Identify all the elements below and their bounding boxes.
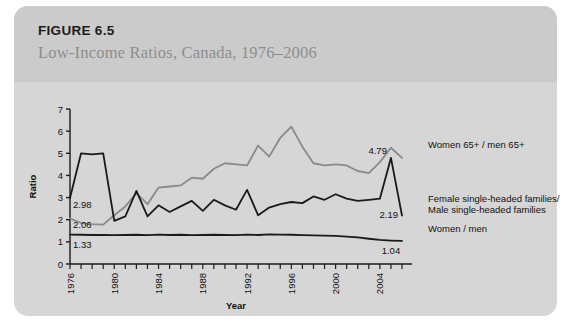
x-axis-tick-label: 1976: [65, 273, 76, 294]
data-point-label: 2.19: [380, 209, 399, 220]
legend-label-female-single-headed-line2: Male single-headed families: [428, 204, 559, 215]
y-axis-tick-label: 2: [58, 214, 63, 225]
data-point-label: 1.33: [73, 239, 92, 250]
legend-label-women-65-plus: Women 65+ / men 65+: [428, 139, 524, 150]
data-point-label: 2.06: [73, 219, 92, 230]
y-axis-title: Ratio: [27, 174, 38, 198]
x-axis-tick-label: 2004: [374, 273, 385, 294]
figure-panel: FIGURE 6.5 Low-Income Ratios, Canada, 19…: [14, 6, 557, 316]
y-axis-tick-label: 0: [58, 259, 63, 270]
x-axis-tick-label: 1992: [242, 273, 253, 294]
y-axis-tick-label: 4: [58, 170, 63, 181]
x-axis-tick-label: 1996: [286, 273, 297, 294]
y-axis: 01234567: [58, 104, 70, 270]
y-axis-tick-label: 1: [58, 236, 63, 247]
series-line: [70, 234, 402, 241]
y-axis-tick-label: 6: [58, 126, 63, 137]
x-axis-tick-label: 2000: [330, 273, 341, 294]
figure-subtitle: Low-Income Ratios, Canada, 1976–2006: [38, 43, 317, 63]
data-point-label: 4.79: [368, 145, 387, 156]
x-axis-tick-label: 1984: [153, 273, 164, 294]
data-point-label: 2.98: [73, 199, 92, 210]
data-series-group: [70, 127, 402, 241]
x-axis-title: Year: [226, 300, 246, 311]
plot-area: 01234567 1976198019841988199219962000200…: [14, 82, 557, 316]
y-axis-tick-label: 3: [58, 192, 63, 203]
data-point-label: 1.04: [382, 245, 401, 256]
legend-label-female-single-headed-line1: Female single-headed families/: [428, 193, 559, 204]
x-axis: 19761980198419881992199620002004: [65, 264, 413, 294]
y-axis-tick-label: 5: [58, 148, 63, 159]
x-axis-tick-label: 1980: [109, 273, 120, 294]
legend-label-women-men: Women / men: [428, 223, 487, 234]
figure-number: FIGURE 6.5: [38, 23, 115, 38]
legend-label-female-single-headed: Female single-headed families/ Male sing…: [428, 193, 559, 215]
x-axis-tick-label: 1988: [197, 273, 208, 294]
y-axis-tick-label: 7: [58, 104, 63, 115]
